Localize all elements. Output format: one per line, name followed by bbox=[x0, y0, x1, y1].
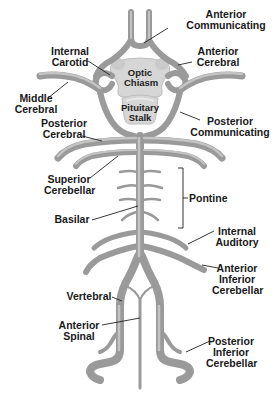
label-internal-auditory: Internal Auditory bbox=[214, 226, 260, 248]
label-line: Pontine bbox=[189, 193, 231, 204]
label-posterior-inferior-cerebellar: Posterior Inferior Cerebellar bbox=[206, 336, 256, 369]
pituitary-stalk-label: Pituitary Stalk bbox=[121, 103, 159, 123]
label-line: Cerebellar bbox=[206, 358, 256, 369]
label-line: Communicating bbox=[182, 20, 270, 31]
label-pontine: Pontine bbox=[189, 193, 231, 204]
label-basilar: Basilar bbox=[52, 214, 92, 225]
label-line: Communicating bbox=[186, 127, 274, 138]
optic-chiasm-label: Optic Chiasm bbox=[124, 68, 156, 88]
label-anterior-inferior-cerebellar: Anterior Inferior Cerebellar bbox=[212, 263, 262, 296]
label-line: Carotid bbox=[48, 57, 92, 68]
optic-chiasm-line-2: Chiasm bbox=[124, 78, 156, 88]
label-line: Vertebral bbox=[66, 291, 112, 302]
pontine-bracket bbox=[178, 168, 188, 228]
label-posterior-cerebral: Posterior Cerebral bbox=[40, 118, 88, 140]
label-line: Cerebral bbox=[12, 104, 60, 115]
label-line: Spinal bbox=[56, 331, 102, 342]
label-anterior-communicating: Anterior Communicating bbox=[182, 9, 270, 31]
label-line: Cerebral bbox=[194, 57, 242, 68]
label-line: Cerebral bbox=[40, 129, 88, 140]
label-internal-carotid: Internal Carotid bbox=[48, 46, 92, 68]
label-anterior-spinal: Anterior Spinal bbox=[56, 320, 102, 342]
label-middle-cerebral: Middle Cerebral bbox=[12, 93, 60, 115]
label-vertebral: Vertebral bbox=[66, 291, 112, 302]
label-anterior-cerebral: Anterior Cerebral bbox=[194, 46, 242, 68]
label-superior-cerebellar: Superior Cerebellar bbox=[44, 174, 94, 196]
label-line: Auditory bbox=[214, 237, 260, 248]
label-line: Basilar bbox=[52, 214, 92, 225]
pituitary-stalk-line-2: Stalk bbox=[121, 113, 159, 123]
label-posterior-communicating: Posterior Communicating bbox=[186, 116, 274, 138]
label-line: Cerebellar bbox=[212, 285, 262, 296]
label-line: Cerebellar bbox=[44, 185, 94, 196]
